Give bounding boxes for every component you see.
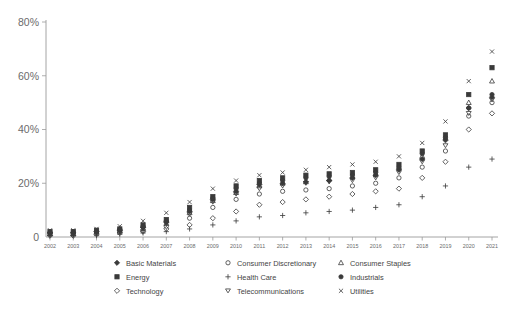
- x-tick-label: 2016: [370, 243, 382, 249]
- legend-item-consumer-discretionary[interactable]: Consumer Discretionary: [226, 259, 317, 268]
- legend-label: Health Care: [237, 273, 276, 282]
- x-tick-label: 2009: [207, 243, 219, 249]
- y-tick-label: 60%: [18, 70, 39, 82]
- legend-item-telecommunications[interactable]: Telecommunications: [226, 287, 305, 296]
- x-tick-label: 2021: [486, 243, 498, 249]
- y-tick-label: 80%: [18, 16, 39, 28]
- data-point-filled-circle: [94, 229, 98, 233]
- x-tick-label: 2002: [44, 243, 56, 249]
- y-tick-label: 0: [33, 231, 39, 243]
- data-point-filled-circle: [187, 208, 191, 212]
- x-tick-label: 2005: [114, 243, 126, 249]
- legend-label: Telecommunications: [237, 287, 304, 296]
- data-point-filled-circle: [280, 178, 284, 182]
- x-tick-label: 2003: [67, 243, 79, 249]
- legend-label: Technology: [126, 287, 164, 296]
- data-point-filled-circle: [490, 92, 494, 96]
- x-tick-label: 2013: [300, 243, 312, 249]
- data-point-filled-circle: [234, 186, 238, 190]
- data-point-filled-circle: [327, 174, 331, 178]
- x-tick-label: 2012: [277, 243, 289, 249]
- x-tick-label: 2014: [323, 243, 335, 249]
- data-point-filled-circle: [257, 181, 261, 185]
- x-tick-label: 2010: [230, 243, 242, 249]
- x-tick-label: 2017: [393, 243, 405, 249]
- x-tick-label: 2004: [91, 243, 103, 249]
- data-point-filled-circle: [211, 196, 215, 200]
- data-point-filled-square: [467, 92, 471, 96]
- x-tick-label: 2008: [184, 243, 196, 249]
- y-tick-label: 20%: [18, 177, 39, 189]
- data-point-filled-circle: [304, 176, 308, 180]
- legend-label: Consumer Discretionary: [237, 259, 317, 268]
- legend-item-consumer-staples[interactable]: Consumer Staples: [339, 259, 412, 268]
- x-tick-label: 2007: [160, 243, 172, 249]
- legend-label: Consumer Staples: [350, 259, 411, 268]
- x-tick-label: 2011: [254, 243, 266, 249]
- data-point-filled-square: [490, 66, 494, 70]
- data-point-filled-circle: [339, 275, 343, 279]
- data-point-filled-circle: [350, 173, 354, 177]
- data-point-filled-circle: [443, 135, 447, 139]
- data-point-filled-circle: [164, 219, 168, 223]
- data-point-filled-circle: [141, 224, 145, 228]
- scatter-plot: 020%40%60%80% 20022003200420052006200720…: [0, 0, 519, 314]
- legend-label: Utilities: [350, 287, 374, 296]
- x-tick-label: 2015: [346, 243, 358, 249]
- legend-label: Basic Materials: [126, 259, 176, 268]
- data-point-filled-circle: [420, 152, 424, 156]
- data-point-filled-circle: [467, 106, 471, 110]
- data-point-filled-circle: [397, 165, 401, 169]
- x-tick-label: 2018: [416, 243, 428, 249]
- x-tick-label: 2006: [137, 243, 149, 249]
- x-tick-label: 2020: [463, 243, 475, 249]
- data-point-filled-square: [115, 275, 119, 279]
- x-tick-label: 2019: [439, 243, 451, 249]
- legend-label: Industrials: [350, 273, 384, 282]
- chart-container: 020%40%60%80% 20022003200420052006200720…: [0, 0, 519, 314]
- legend-label: Energy: [126, 273, 150, 282]
- data-point-filled-circle: [374, 170, 378, 174]
- y-tick-label: 40%: [18, 123, 39, 135]
